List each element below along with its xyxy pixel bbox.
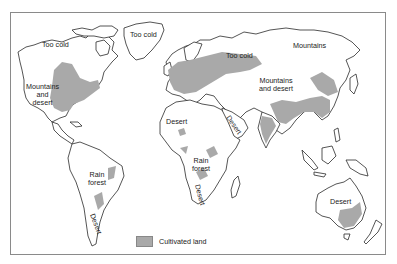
caribbean	[70, 122, 82, 127]
label-sa-rain-forest: Rain forest	[88, 171, 106, 187]
label-line: and desert	[259, 85, 293, 93]
borneo	[322, 146, 336, 164]
legend-label: Cultivated land	[159, 237, 207, 246]
tasmania	[344, 234, 350, 240]
legend: Cultivated land	[136, 236, 207, 247]
label-na-too-cold: Too cold	[42, 41, 69, 49]
label-greenland-too-cold: Too cold	[130, 31, 157, 39]
cultivated-land-swatch	[136, 236, 153, 247]
label-siberia-mountains: Mountains	[293, 42, 326, 50]
label-africa-rain-forest: Rain forest	[192, 157, 210, 173]
label-asia-mountains-desert: Mountains and desert	[259, 77, 293, 93]
label-sahara-desert: Desert	[166, 118, 187, 126]
label-russia-too-cold: Too cold	[226, 52, 253, 60]
label-line: forest	[192, 165, 210, 173]
label-line: forest	[88, 179, 106, 187]
new-zealand	[364, 220, 382, 244]
central-america	[52, 122, 74, 144]
new-guinea	[346, 160, 368, 176]
sumatra	[302, 150, 318, 170]
label-line: desert	[26, 99, 59, 107]
philippines	[334, 128, 340, 142]
madagascar	[231, 176, 240, 198]
greenland	[124, 22, 164, 60]
label-na-mountains-desert: Mountains and desert	[26, 83, 59, 107]
label-australia-desert: Desert	[330, 198, 351, 206]
japan	[350, 74, 358, 94]
java	[314, 172, 326, 177]
